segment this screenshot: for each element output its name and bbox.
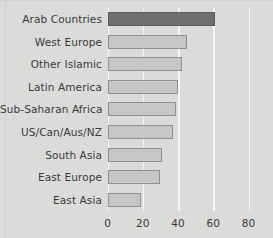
category-label: Latin America (0, 80, 102, 94)
bar-row (108, 80, 249, 94)
category-axis: Arab CountriesWest EuropeOther IslamicLa… (0, 8, 102, 211)
x-tick-label: 0 (104, 216, 111, 230)
bar-row (108, 170, 249, 184)
top-divider (0, 0, 273, 1)
bar[interactable] (108, 80, 179, 94)
x-tick-label: 20 (136, 216, 149, 230)
x-tick-label: 60 (207, 216, 220, 230)
category-label: US/Can/Aus/NZ (0, 125, 102, 139)
plot-area (108, 8, 249, 211)
x-axis-ticks: 020406080 (108, 216, 249, 232)
bar[interactable] (108, 57, 182, 71)
bar[interactable] (108, 193, 141, 207)
category-label: South Asia (0, 148, 102, 162)
bar-row (108, 125, 249, 139)
category-label: East Europe (0, 170, 102, 184)
bar-row (108, 12, 249, 26)
bar-chart: Arab CountriesWest EuropeOther IslamicLa… (0, 0, 273, 238)
bar[interactable] (108, 148, 163, 162)
gridline-80 (249, 8, 251, 211)
bar[interactable] (108, 102, 177, 116)
category-label: East Asia (0, 193, 102, 207)
bar-row (108, 148, 249, 162)
bar-row (108, 35, 249, 49)
category-label: Sub-Saharan Africa (0, 102, 102, 116)
bars-group (108, 8, 249, 211)
bar[interactable] (108, 12, 216, 26)
category-label: West Europe (0, 35, 102, 49)
category-label: Arab Countries (0, 12, 102, 26)
bar-row (108, 57, 249, 71)
bar[interactable] (108, 170, 161, 184)
x-tick-label: 40 (171, 216, 184, 230)
bar-row (108, 193, 249, 207)
bar-row (108, 102, 249, 116)
x-tick-label: 80 (242, 216, 255, 230)
category-label: Other Islamic (0, 57, 102, 71)
bar[interactable] (108, 125, 173, 139)
bar[interactable] (108, 35, 187, 49)
